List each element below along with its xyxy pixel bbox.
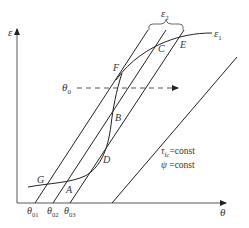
y-axis-label: ε [8, 26, 13, 38]
annotation-psi-const: ψ =const [161, 160, 195, 170]
label-epsilon2: ε2 [161, 7, 169, 22]
point-label-G: G [37, 174, 44, 185]
annotation-tau-const: τfc=const [161, 146, 195, 158]
point-label-E: E [179, 39, 186, 50]
label-theta0: θ0 [62, 81, 71, 96]
x-axis-label: θ [220, 206, 226, 218]
point-label-F: F [112, 62, 120, 73]
label-epsilon1: ε1 [214, 27, 222, 42]
tick-label-theta01: θ01 [27, 205, 38, 218]
point-label-B: B [115, 112, 121, 123]
tick-label-theta02: θ02 [47, 205, 58, 218]
tick-label-theta03: θ03 [64, 205, 75, 218]
point-label-D: D [102, 154, 111, 165]
point-label-C: C [158, 43, 165, 54]
point-label-A: A [65, 184, 73, 195]
line-theta02 [53, 30, 166, 203]
line-theta03 [70, 30, 184, 203]
line-tau-psi-const [112, 57, 237, 203]
theta-epsilon-diagram: ε θ ε1 ε2 θ0 G A D B F C E θ01 θ02 θ03 τ… [0, 0, 249, 228]
line-theta01 [35, 30, 148, 203]
